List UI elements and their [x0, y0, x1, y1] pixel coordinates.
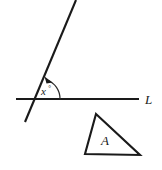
arc-arrowhead-icon [45, 77, 53, 84]
triangle-shape [85, 114, 140, 155]
slanted-transversal-line [25, 0, 76, 122]
angle-label-x: x [40, 85, 46, 97]
triangle-label-A: A [100, 133, 109, 148]
geometry-figure: x ° L A [0, 0, 162, 170]
figure-canvas: x ° L A [0, 0, 162, 170]
angle-label-degree-icon: ° [48, 84, 51, 92]
line-L-label: L [144, 92, 152, 107]
